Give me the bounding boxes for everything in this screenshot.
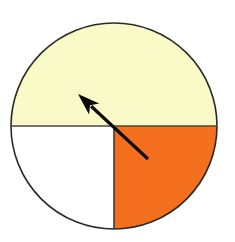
pie-diagram (0, 0, 235, 242)
top-half-sector (11, 23, 217, 126)
bottom-left-sector (11, 126, 114, 229)
figure-root: Circle divided into shaded sectors with … (0, 0, 235, 242)
